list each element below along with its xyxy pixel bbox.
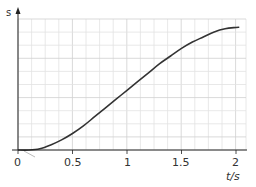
y-axis-label: s (6, 7, 11, 18)
displacement-time-chart: s 0 0.5 1 1.5 2 t/s (0, 0, 256, 187)
x-tick-label-2: 2 (232, 156, 239, 169)
x-ticks (18, 150, 236, 154)
tangent-stroke (24, 151, 35, 157)
tangent-annotation (24, 151, 35, 157)
x-tick-label-1: 1 (124, 156, 131, 169)
displacement-curve (18, 27, 239, 150)
x-tick-label-0.5: 0.5 (64, 156, 82, 169)
x-tick-label-1.5: 1.5 (172, 156, 190, 169)
grid (18, 19, 246, 150)
y-axis-arrow-icon (16, 7, 21, 14)
x-axis-label: t/s (226, 170, 240, 183)
x-tick-label-0: 0 (14, 156, 21, 169)
